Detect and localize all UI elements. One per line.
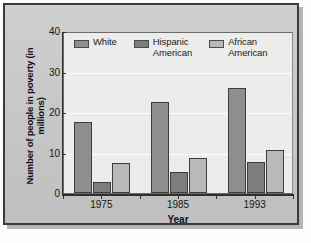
bar: [266, 150, 284, 193]
x-axis-title: Year: [63, 214, 293, 225]
bar: [170, 172, 188, 193]
plot-area: WhiteHispanic AmericanAfrican American: [63, 32, 293, 194]
legend-swatch-icon: [209, 40, 224, 48]
chart-page: 010203040 Number of people in poverty (i…: [0, 0, 311, 243]
legend-swatch-icon: [134, 40, 149, 48]
y-tick-mark: [62, 154, 66, 155]
x-tick-mark: [140, 194, 141, 199]
x-tick-mark: [63, 194, 64, 199]
figure-frame: 010203040 Number of people in poverty (i…: [3, 3, 299, 225]
legend-label: African American: [228, 37, 267, 58]
legend-item: White: [74, 37, 117, 48]
y-tick-mark: [62, 73, 66, 74]
bar: [74, 122, 92, 193]
y-tick-mark: [62, 113, 66, 114]
x-tick-mark: [293, 194, 294, 199]
x-tick-label: 1985: [158, 199, 198, 210]
y-axis-title: Number of people in poverty (in millions…: [24, 40, 46, 192]
bar: [112, 163, 130, 193]
legend-label: Hispanic American: [153, 37, 192, 58]
y-tick-mark: [62, 32, 66, 33]
bar: [93, 182, 111, 193]
chart-legend: WhiteHispanic AmericanAfrican American: [74, 37, 267, 58]
bar: [189, 158, 207, 193]
x-tick-label: 1993: [235, 199, 275, 210]
y-tick-label: 40: [38, 26, 60, 37]
bar: [151, 102, 169, 193]
legend-swatch-icon: [74, 40, 89, 48]
bar: [228, 88, 246, 193]
legend-item: Hispanic American: [134, 37, 192, 58]
bar: [247, 162, 265, 193]
x-tick-label: 1975: [81, 199, 121, 210]
x-tick-mark: [216, 194, 217, 199]
legend-item: African American: [209, 37, 267, 58]
legend-label: White: [93, 37, 117, 48]
